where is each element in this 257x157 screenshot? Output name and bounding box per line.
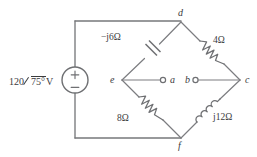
source-label: 12075°V	[8, 75, 53, 88]
circuit-diagram: 12075°V −j6Ω 4Ω 8Ω j12Ω d e a b c f	[0, 0, 257, 157]
node-label-a: a	[170, 75, 175, 85]
terminal-a-circle[interactable]	[160, 77, 165, 82]
wire-inductor-to-c	[220, 80, 240, 99]
node-label-c: c	[245, 75, 249, 85]
node-label-e: e	[110, 75, 114, 85]
wire-d-to-resistor4	[181, 22, 200, 41]
capacitor-label: −j6Ω	[101, 33, 121, 43]
source-unit: V	[46, 76, 53, 87]
node-label-f: f	[178, 141, 181, 151]
node-label-d: d	[178, 8, 183, 18]
wire-capacitor-to-d	[160, 22, 182, 44]
inductor-label: j12Ω	[213, 113, 232, 123]
wire-e-to-capacitor	[122, 59, 145, 81]
voltage-source-symbol	[62, 67, 88, 93]
angle-icon	[24, 75, 31, 85]
bridge-center-terminals	[122, 77, 240, 82]
wire-e-to-resistor8	[122, 80, 139, 97]
capacitor-symbol	[146, 41, 161, 56]
resistor-8ohm-label: 8Ω	[117, 114, 129, 124]
source-magnitude: 120	[9, 76, 24, 87]
node-label-b: b	[185, 75, 190, 85]
source-phase: 75°	[31, 76, 46, 88]
resistor-8ohm-symbol	[139, 96, 163, 120]
wire-f-to-inductor	[181, 122, 197, 138]
wire-resistor8-to-f	[163, 120, 181, 138]
terminal-b-circle[interactable]	[193, 77, 198, 82]
resistor-4ohm-label: 4Ω	[213, 36, 225, 46]
wire-resistor4-to-c	[224, 64, 240, 80]
